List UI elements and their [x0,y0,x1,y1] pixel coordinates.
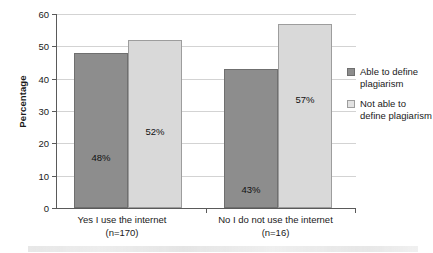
y-axis-title: Percentage [17,47,28,157]
y-tick-label-10: 10 [38,170,49,181]
y-axis-line [56,14,57,208]
bar-no-not-able-to-define[interactable]: 57% [278,24,332,208]
x-category-label-no-line2: (n=16) [173,226,378,239]
scan-artifact-text-line [28,246,418,252]
x-category-label-yes-line1: Yes I use the internet [78,214,167,225]
bar-label-yes-not-able: 52% [129,126,181,137]
legend-swatch-icon-able [347,68,355,76]
y-tick-mark-50 [52,46,56,47]
y-tick-label-0: 0 [44,203,49,214]
y-tick-label-20: 20 [38,138,49,149]
x-category-label-no: No I do not use the internet (n=16) [173,213,378,239]
legend-label-able: Able to define plagiarism [360,66,433,89]
chart-legend: Able to define plagiarism Not able to de… [347,66,433,130]
y-tick-label-30: 30 [38,106,49,117]
y-tick-mark-10 [52,176,56,177]
legend-item-able-to-define[interactable]: Able to define plagiarism [347,66,433,89]
bar-yes-able-to-define[interactable]: 48% [74,53,128,208]
x-category-label-no-line1: No I do not use the internet [218,214,333,225]
y-tick-mark-0 [52,208,56,209]
bar-no-able-to-define[interactable]: 43% [224,69,278,208]
y-tick-mark-30 [52,111,56,112]
y-tick-mark-20 [52,143,56,144]
y-tick-mark-60 [52,14,56,15]
bar-label-no-able: 43% [225,184,277,195]
y-tick-label-50: 50 [38,41,49,52]
plot-area: 48% 52% 43% 57% [56,14,356,208]
bar-yes-not-able-to-define[interactable]: 52% [128,40,182,208]
legend-swatch-icon-not-able [347,100,355,108]
y-tick-label-60: 60 [38,9,49,20]
gridline-60 [56,14,356,15]
bar-label-yes-able: 48% [75,152,127,163]
y-tick-label-40: 40 [38,73,49,84]
legend-label-not-able: Not able to define plagiarism [360,98,433,121]
legend-item-not-able-to-define[interactable]: Not able to define plagiarism [347,98,433,121]
y-tick-mark-40 [52,79,56,80]
bar-label-no-not-able: 57% [279,94,331,105]
bar-chart-figure: Percentage 0 10 20 30 40 50 60 [0,0,433,253]
